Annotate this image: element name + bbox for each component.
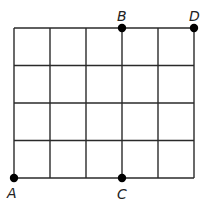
label-a: A (6, 185, 17, 201)
point-c (118, 174, 126, 182)
point-d (190, 24, 198, 32)
point-b (118, 24, 126, 32)
grid-lines (14, 28, 194, 178)
label-c: C (117, 186, 127, 202)
label-b: B (117, 8, 127, 24)
grid-diagram: A B C D (0, 0, 208, 206)
label-d: D (189, 8, 200, 24)
point-a (10, 174, 18, 182)
